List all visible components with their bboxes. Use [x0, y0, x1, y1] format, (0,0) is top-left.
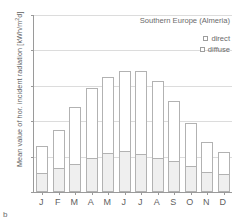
bar-segment-diffuse	[201, 172, 213, 192]
bar-segment-diffuse	[135, 154, 147, 192]
legend-item-direct: direct	[200, 33, 230, 44]
x-axis-tick-mark	[174, 192, 175, 195]
bar-o-9	[185, 123, 197, 192]
bar-segment-diffuse	[36, 173, 48, 192]
y-axis-title-prefix: Mean value of hor. incident radiation [k…	[15, 21, 24, 167]
bar-segment-diffuse	[119, 151, 131, 192]
bar-f-1	[53, 130, 65, 192]
bar-s-8	[168, 101, 180, 192]
x-axis-tick-mark	[92, 192, 93, 195]
bar-j-6	[135, 71, 147, 192]
bar-n-10	[201, 142, 213, 192]
bar-segment-diffuse	[185, 166, 197, 192]
bar-a-7	[152, 81, 164, 192]
bar-segment-diffuse	[102, 153, 114, 192]
bar-segment-diffuse	[69, 164, 81, 192]
bar-m-2	[69, 107, 81, 192]
legend-label-diffuse: diffuse	[208, 45, 230, 54]
y-axis-title: Mean value of hor. incident radiation [k…	[14, 0, 24, 184]
x-axis-tick-mark	[42, 192, 43, 195]
x-axis-tick-mark	[207, 192, 208, 195]
legend: direct diffuse	[200, 33, 230, 55]
bar-segment-diffuse	[53, 168, 65, 192]
bar-segment-diffuse	[86, 158, 98, 192]
legend-swatch-diffuse-icon	[200, 47, 205, 52]
bar-j-0	[36, 146, 48, 192]
x-axis-tick-mark	[224, 192, 225, 195]
chart-figure: Mean value of hor. incident radiation [k…	[0, 0, 237, 224]
bar-j-5	[119, 71, 131, 192]
bar-m-4	[102, 77, 114, 192]
x-axis-tick-mark	[75, 192, 76, 195]
y-axis-tick-mark	[31, 192, 34, 193]
y-axis-title-exponent: 2	[14, 18, 20, 21]
bar-segment-diffuse	[168, 161, 180, 192]
x-axis-tick-mark	[125, 192, 126, 195]
legend-swatch-direct-icon	[203, 36, 208, 41]
x-axis-tick-mark	[59, 192, 60, 195]
x-axis-tick-label: D	[213, 197, 233, 207]
x-axis-tick-mark	[108, 192, 109, 195]
legend-item-diffuse: diffuse	[200, 44, 230, 55]
x-axis-tick-mark	[191, 192, 192, 195]
bar-segment-diffuse	[218, 174, 230, 192]
x-axis-tick-mark	[158, 192, 159, 195]
bar-segment-diffuse	[152, 158, 164, 193]
chart-title: Southern Europe (Almeria)	[140, 16, 230, 25]
panel-label: b	[3, 210, 7, 219]
bar-d-11	[218, 152, 230, 192]
legend-label-direct: direct	[211, 34, 230, 43]
x-axis-tick-mark	[141, 192, 142, 195]
y-axis-title-suffix: d]	[15, 11, 24, 17]
bar-a-3	[86, 88, 98, 192]
